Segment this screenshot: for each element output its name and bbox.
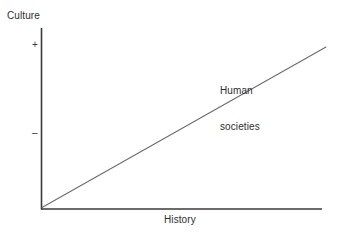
series-annotation-line-1: Human	[220, 85, 260, 97]
series-annotation-human-societies: Human societies	[220, 61, 260, 157]
x-axis-title: History	[164, 214, 196, 226]
series-annotation-line-2: societies	[220, 121, 260, 133]
culture-history-chart: Culture + – History Human societies	[0, 0, 338, 237]
y-tick-label-plus: +	[32, 39, 38, 51]
y-axis-title: Culture	[7, 10, 40, 22]
y-tick-label-minus: –	[32, 127, 38, 139]
chart-canvas	[0, 0, 338, 237]
chart-background	[0, 0, 338, 237]
